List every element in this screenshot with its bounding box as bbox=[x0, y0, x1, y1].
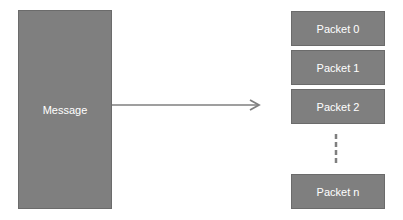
packet-label: Packet 2 bbox=[317, 101, 360, 113]
packet-2: Packet 2 bbox=[291, 89, 385, 124]
packet-n: Packet n bbox=[291, 174, 385, 209]
packet-0: Packet 0 bbox=[291, 11, 385, 46]
packet-label: Packet 1 bbox=[317, 62, 360, 74]
packet-label: Packet 0 bbox=[317, 23, 360, 35]
packet-label: Packet n bbox=[317, 186, 360, 198]
packet-1: Packet 1 bbox=[291, 50, 385, 85]
arrow-icon bbox=[112, 100, 259, 110]
